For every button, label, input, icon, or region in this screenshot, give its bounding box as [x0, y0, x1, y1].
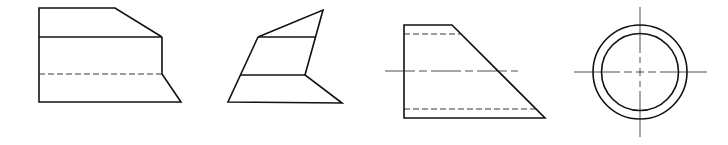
view-1 — [39, 8, 181, 102]
view-2 — [228, 10, 342, 103]
drawing-canvas — [0, 0, 728, 145]
view-3-outline — [404, 25, 545, 118]
view-2-outline — [228, 10, 342, 103]
view-1-outline — [39, 8, 181, 102]
view-4 — [574, 7, 707, 137]
view-3 — [385, 25, 545, 118]
